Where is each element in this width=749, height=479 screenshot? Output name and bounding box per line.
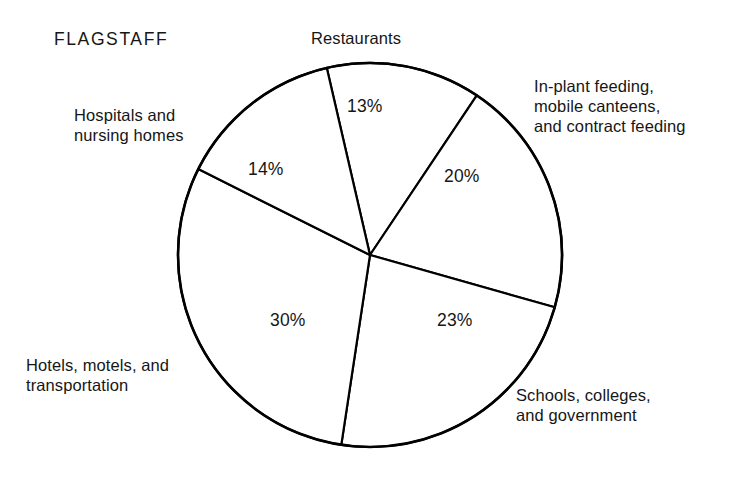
slice-label-line: Restaurants [311, 28, 401, 48]
chart-title: FLAGSTAFF [54, 29, 168, 50]
slice-label-line: nursing homes [74, 125, 184, 145]
slice-label-hospitals: Hospitals andnursing homes [74, 105, 184, 145]
slice-label-line: Hotels, motels, and [26, 355, 169, 375]
slice-value-hotels: 30% [270, 310, 306, 331]
slice-label-line: mobile canteens, [534, 96, 686, 116]
slice-value-hospitals: 14% [248, 159, 284, 180]
slice-label-inplant: In-plant feeding,mobile canteens,and con… [534, 76, 686, 136]
slice-value-schools: 23% [437, 310, 473, 331]
slice-value-restaurants: 13% [347, 96, 383, 117]
slice-label-line: In-plant feeding, [534, 76, 686, 96]
slice-label-hotels: Hotels, motels, andtransportation [26, 355, 169, 395]
slice-label-line: and contract feeding [534, 116, 686, 136]
pie-chart-figure: FLAGSTAFF Restaurants In-plant feeding,m… [0, 0, 749, 479]
slice-label-restaurants: Restaurants [311, 28, 401, 48]
slice-label-line: Hospitals and [74, 105, 184, 125]
slice-label-line: and government [516, 405, 651, 425]
pie-slice-group [178, 63, 562, 447]
slice-label-line: Schools, colleges, [516, 385, 651, 405]
slice-label-line: transportation [26, 375, 169, 395]
slice-value-inplant: 20% [444, 166, 480, 187]
slice-label-schools: Schools, colleges,and government [516, 385, 651, 425]
